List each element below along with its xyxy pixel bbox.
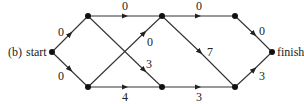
node-finish [269,49,275,55]
weight-start-b: 0 [58,69,64,83]
edge-f-finish [235,52,272,87]
node-a [85,13,91,19]
weight-c-f: 7 [207,45,213,59]
edges [52,16,272,87]
node-d [159,84,165,90]
weight-b-d: 4 [122,90,128,104]
weight-b-c: 0 [147,35,153,49]
weight-a-c: 0 [122,0,128,13]
weight-c-e: 0 [196,0,202,13]
weight-a-d: 3 [146,57,152,71]
edge-e-finish [235,16,272,52]
caption-label: (b) [8,45,22,59]
node-f [232,84,238,90]
node-e [232,13,238,19]
weight-d-f: 3 [196,90,202,104]
node-c [159,13,165,19]
start-label: start [26,45,47,59]
edge-c-f [162,16,235,87]
network-diagram: (b) start finish 0 0 0 3 0 4 0 7 3 0 3 [0,0,304,104]
weight-e-finish: 0 [259,24,265,38]
finish-label: finish [277,45,304,59]
nodes [49,13,275,90]
weight-start-a: 0 [58,25,64,39]
node-b [85,84,91,90]
node-start [49,49,55,55]
weight-f-finish: 3 [259,69,265,83]
